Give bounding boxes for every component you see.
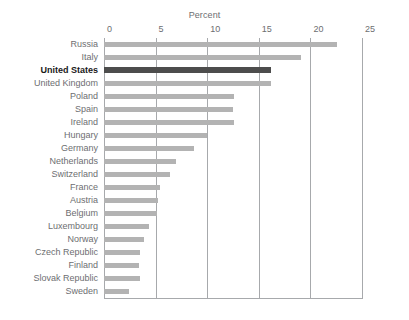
category-label: France	[0, 182, 98, 193]
x-tick-label: 10	[207, 24, 220, 34]
x-tick-label: 0	[104, 24, 112, 34]
bar-row: Italy	[0, 51, 409, 65]
category-label: Spain	[0, 104, 98, 115]
category-label: Sweden	[0, 286, 98, 297]
bar-row: Slovak Republic	[0, 272, 409, 286]
bar	[104, 81, 271, 86]
bar-row: Netherlands	[0, 155, 409, 169]
bar	[104, 185, 160, 190]
bar	[104, 237, 144, 242]
bar	[104, 250, 140, 255]
bar-row: Switzerland	[0, 168, 409, 182]
bar-row: Spain	[0, 103, 409, 117]
bar-row: Germany	[0, 142, 409, 156]
bar	[104, 289, 129, 294]
bar	[104, 276, 140, 281]
category-label: Finland	[0, 260, 98, 271]
category-label: Belgium	[0, 208, 98, 219]
category-label: Luxembourg	[0, 221, 98, 232]
bar-row: Luxembourg	[0, 220, 409, 234]
bar-row: Ireland	[0, 116, 409, 130]
bar-row: Norway	[0, 233, 409, 247]
category-label: Austria	[0, 195, 98, 206]
x-tick-label: 20	[310, 24, 323, 34]
category-label: United States	[0, 65, 98, 76]
bar-row: Austria	[0, 194, 409, 208]
bar-row: Russia	[0, 38, 409, 52]
category-label: Norway	[0, 234, 98, 245]
category-label: Russia	[0, 39, 98, 50]
bar-row: France	[0, 181, 409, 195]
bar-row: Sweden	[0, 285, 409, 299]
bar	[104, 172, 170, 177]
bar	[104, 211, 157, 216]
category-label: Italy	[0, 52, 98, 63]
bar-row: United States	[0, 64, 409, 78]
bar	[104, 263, 139, 268]
x-axis-title: Percent	[0, 10, 409, 20]
x-tick-label: 15	[259, 24, 272, 34]
bar	[104, 55, 301, 60]
category-label: Czech Republic	[0, 247, 98, 258]
bar-rows: RussiaItalyUnited StatesUnited KingdomPo…	[0, 38, 409, 298]
bar	[104, 159, 176, 164]
bar-row: United Kingdom	[0, 77, 409, 91]
category-label: Ireland	[0, 117, 98, 128]
category-label: Slovak Republic	[0, 273, 98, 284]
category-label: United Kingdom	[0, 78, 98, 89]
bar-row: Belgium	[0, 207, 409, 221]
bar	[104, 107, 233, 112]
bar-row: Hungary	[0, 129, 409, 143]
category-label: Poland	[0, 91, 98, 102]
bar	[104, 198, 158, 203]
category-label: Switzerland	[0, 169, 98, 180]
bar	[104, 224, 149, 229]
bar-row: Finland	[0, 259, 409, 273]
bar	[104, 42, 337, 47]
bar	[104, 67, 271, 73]
bar-row: Poland	[0, 90, 409, 104]
bar-chart: Percent 0510152025 RussiaItalyUnited Sta…	[0, 0, 409, 320]
category-label: Netherlands	[0, 156, 98, 167]
bar	[104, 94, 234, 99]
bar	[104, 120, 234, 125]
bar	[104, 133, 207, 138]
bar	[104, 146, 194, 151]
x-tick-label: 5	[156, 24, 164, 34]
bar-row: Czech Republic	[0, 246, 409, 260]
x-tick-label: 25	[362, 24, 375, 34]
category-label: Germany	[0, 143, 98, 154]
category-label: Hungary	[0, 130, 98, 141]
